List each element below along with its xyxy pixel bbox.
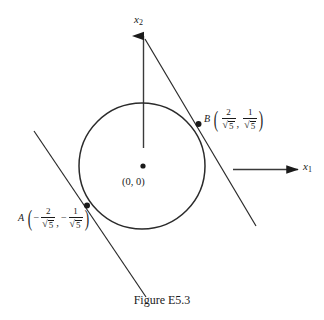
point-marker-B	[196, 121, 202, 127]
point-A-y-numerator: 1	[72, 207, 79, 217]
point-A-y-radicand: 5	[75, 220, 82, 230]
point-B-y-fraction: 1 √5	[243, 108, 257, 131]
point-label-A-name: A	[18, 213, 24, 223]
axis-label-x2: x2	[134, 14, 143, 27]
point-B-x-denominator: √5	[222, 119, 236, 131]
point-A-y-denominator: √5	[69, 218, 83, 230]
point-B-y-radicand: 5	[250, 121, 257, 131]
point-A-x-sign: −	[34, 213, 40, 223]
point-B-x-fraction: 2 √5	[222, 108, 236, 131]
coordinate-separator: ,	[56, 218, 59, 230]
figure-caption: Figure E5.3	[0, 294, 324, 306]
point-B-x-radicand: 5	[228, 121, 235, 131]
point-A-coordinates: − 2 √5 , − 1 √5	[34, 207, 83, 230]
point-A-x-radicand: 5	[48, 220, 55, 230]
origin-label: (0, 0)	[122, 177, 145, 188]
point-B-coordinates: 2 √5 , 1 √5	[220, 108, 258, 131]
point-label-B: B ( 2 √5 , 1 √5 )	[204, 108, 265, 131]
point-A-y-sign: −	[61, 213, 67, 223]
point-A-x-denominator: √5	[41, 218, 55, 230]
origin-dot	[140, 163, 145, 168]
point-A-x-fraction: 2 √5	[41, 207, 55, 230]
figure-e5-3: x2 x1 (0, 0) B ( 2 √5 , 1 √5 ) A (	[0, 0, 324, 320]
point-label-A: A ( − 2 √5 , − 1 √5 )	[18, 207, 91, 230]
axis-label-x2-subscript: 2	[139, 18, 143, 27]
point-B-x-numerator: 2	[225, 108, 232, 118]
axis-label-x1: x1	[303, 161, 312, 174]
coordinate-separator: ,	[237, 119, 240, 131]
figure-drawing-canvas	[0, 0, 324, 320]
point-A-y-fraction: 1 √5	[69, 207, 83, 230]
tangent-line-at-B	[145, 39, 256, 226]
point-label-B-name: B	[204, 114, 210, 124]
point-B-y-denominator: √5	[243, 119, 257, 131]
axis-label-x1-subscript: 1	[308, 165, 312, 174]
point-B-y-numerator: 1	[247, 108, 254, 118]
point-A-x-numerator: 2	[45, 207, 52, 217]
